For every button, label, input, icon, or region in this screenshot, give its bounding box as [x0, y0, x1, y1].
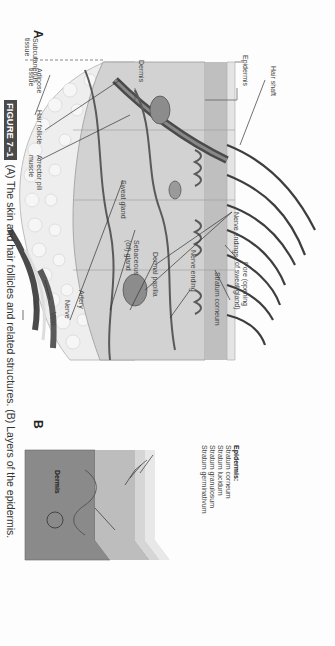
- label-sebaceous-line1: Sebaceous: [132, 240, 140, 275]
- panel-b-epidermis-block: [25, 450, 170, 560]
- label-nerve-endings: Nerve endings: [232, 212, 240, 257]
- label-nerve-ending: Nerve ending: [189, 250, 197, 292]
- label-hair-follicle: Hair follicle: [35, 110, 43, 144]
- label-sweat-gland: Sweat gland: [119, 180, 127, 219]
- label-vein: Vein: [49, 312, 57, 326]
- panel-b-layer-lucidum: Stratum lucidum: [216, 445, 224, 496]
- label-adipose-line2: tissue: [27, 68, 35, 86]
- label-nerve: Nerve: [63, 300, 71, 319]
- label-pore-line2: of sweat gland): [233, 262, 241, 309]
- label-subcutaneous-line2: tissue: [23, 38, 31, 56]
- panel-b-layer-germinativum: Stratum germinativum: [200, 445, 208, 513]
- label-pore-line1: Pore (opening: [241, 262, 249, 306]
- label-sebaceous-line2: (oil) gland: [124, 240, 132, 271]
- label-stratum-corneum: Stratum corneum: [213, 272, 221, 326]
- sebaceous-gland-shape: [169, 181, 181, 199]
- label-epidermis: Epidermis: [241, 55, 249, 86]
- label-arrector-pili-line2: muscle: [27, 155, 35, 177]
- label-dermis: Dermis: [137, 60, 145, 82]
- hair-shafts: [227, 145, 315, 345]
- panel-b-layer-corneum: Stratum corneum: [224, 445, 232, 499]
- label-arrector-pili-line1: Arrector pili: [35, 155, 43, 190]
- label-artery: Artery: [77, 290, 85, 309]
- label-adipose-line1: Adipose: [35, 68, 43, 93]
- rotated-figure-page: A Hair shaft Epidermis Dermis Subcutaneo…: [0, 0, 335, 646]
- panel-b-dermis-label: Dermis: [53, 470, 61, 494]
- figure-tag: FIGURE 7–1: [4, 100, 17, 160]
- figure-canvas: A Hair shaft Epidermis Dermis Subcutaneo…: [0, 0, 335, 646]
- label-hair-shaft: Hair shaft: [269, 66, 277, 96]
- panel-b-letter: B: [31, 420, 45, 429]
- panel-b-heading: Epidermis:: [232, 445, 240, 481]
- label-dermal-papilla: Dermal papilla: [151, 252, 159, 297]
- panel-b-layer-granulosum: Stratum granulosum: [208, 445, 216, 508]
- figure-caption-text: (A) The skin and hair follicles and rela…: [5, 164, 17, 538]
- figure-caption: FIGURE 7–1(A) The skin and hair follicle…: [5, 100, 17, 538]
